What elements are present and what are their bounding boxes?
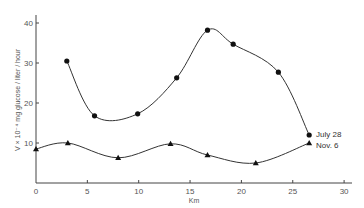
y-tick-label: 40 xyxy=(24,19,33,28)
x-ticks: 051015202530 xyxy=(34,180,349,196)
data-point-circle xyxy=(307,132,312,137)
series-line-july-28 xyxy=(67,29,309,135)
y-tick-label: 30 xyxy=(24,59,33,68)
x-tick-label: 5 xyxy=(85,187,90,196)
legend-july-28: July 28 xyxy=(316,130,342,139)
line-chart: 051015202530 10203040 Km V × 10⁻⁴ mg glu… xyxy=(0,0,364,208)
data-point-circle xyxy=(135,111,140,116)
y-tick-label: 20 xyxy=(24,99,33,108)
x-tick-label: 10 xyxy=(134,187,143,196)
y-ticks: 10203040 xyxy=(24,19,39,148)
series-group xyxy=(33,28,312,166)
data-point-circle xyxy=(205,28,210,33)
x-tick-label: 20 xyxy=(237,187,246,196)
legend-nov-6: Nov. 6 xyxy=(316,141,339,150)
data-point-circle xyxy=(64,58,69,63)
x-tick-label: 25 xyxy=(288,187,297,196)
x-tick-label: 0 xyxy=(34,187,39,196)
data-point-circle xyxy=(231,42,236,47)
x-tick-label: 15 xyxy=(186,187,195,196)
x-axis-label: Km xyxy=(189,197,200,204)
x-tick-label: 30 xyxy=(340,187,349,196)
data-point-circle xyxy=(174,75,179,80)
data-point-circle xyxy=(276,70,281,75)
axes xyxy=(36,15,352,183)
data-point-circle xyxy=(92,113,97,118)
y-axis-label: V × 10⁻⁴ mg glucose / liter / hour xyxy=(14,48,22,151)
y-tick-label: 10 xyxy=(24,139,33,148)
data-point-triangle xyxy=(306,140,312,145)
